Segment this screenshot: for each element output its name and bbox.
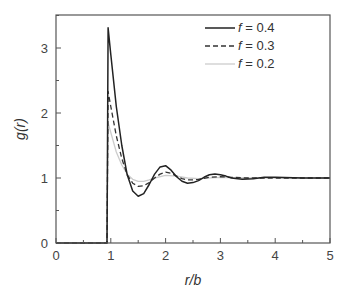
y-tick-label: 1	[41, 171, 48, 186]
chart: 012345 0123 r/b g(r) f = 0.4f = 0.3f = 0…	[0, 0, 349, 298]
y-axis-ticks: 0123	[41, 16, 61, 252]
y-tick-label: 0	[41, 236, 48, 251]
y-axis-label: g(r)	[12, 118, 28, 140]
y-tick-label: 2	[41, 106, 48, 121]
x-tick-label: 4	[272, 248, 279, 263]
x-tick-label: 2	[162, 248, 169, 263]
legend: f = 0.4f = 0.3f = 0.2	[205, 20, 275, 71]
x-axis-ticks: 012345	[52, 238, 333, 263]
x-tick-label: 5	[326, 248, 333, 263]
y-tick-label: 3	[41, 41, 48, 56]
x-tick-label: 1	[107, 248, 114, 263]
plot-frame	[56, 15, 330, 243]
series-line-04	[56, 28, 330, 243]
legend-label: f = 0.4	[238, 20, 275, 35]
series-line-03	[56, 92, 330, 244]
legend-label: f = 0.3	[238, 38, 275, 53]
x-tick-label: 0	[52, 248, 59, 263]
legend-label: f = 0.2	[238, 56, 275, 71]
x-axis-label: r/b	[185, 272, 202, 288]
curves-group	[56, 28, 330, 243]
x-tick-label: 3	[217, 248, 224, 263]
